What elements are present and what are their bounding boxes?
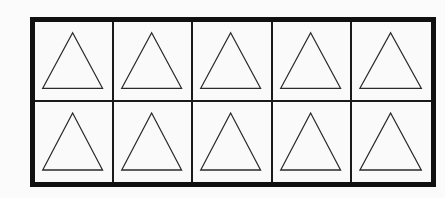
triangle-icon: [114, 22, 191, 100]
ten-frame-grid: [30, 17, 436, 187]
grid-cell-r2-c5: [352, 102, 431, 182]
grid-cell-r2-c2: [114, 102, 193, 182]
triangle-icon: [352, 22, 431, 100]
grid-cell-r2-c3: [193, 102, 272, 182]
triangle-icon: [35, 22, 112, 100]
triangle-icon: [352, 102, 431, 182]
grid-cell-r2-c1: [35, 102, 114, 182]
triangle-icon: [193, 22, 270, 100]
triangle-icon: [273, 102, 350, 182]
grid-cell-r1-c5: [352, 22, 431, 102]
triangle-icon: [114, 102, 191, 182]
grid-cell-r1-c3: [193, 22, 272, 102]
grid-cell-r2-c4: [273, 102, 352, 182]
triangle-icon: [193, 102, 270, 182]
grid-cell-r1-c4: [273, 22, 352, 102]
grid-cell-r1-c2: [114, 22, 193, 102]
triangle-icon: [35, 102, 112, 182]
triangle-icon: [273, 22, 350, 100]
grid-cell-r1-c1: [35, 22, 114, 102]
